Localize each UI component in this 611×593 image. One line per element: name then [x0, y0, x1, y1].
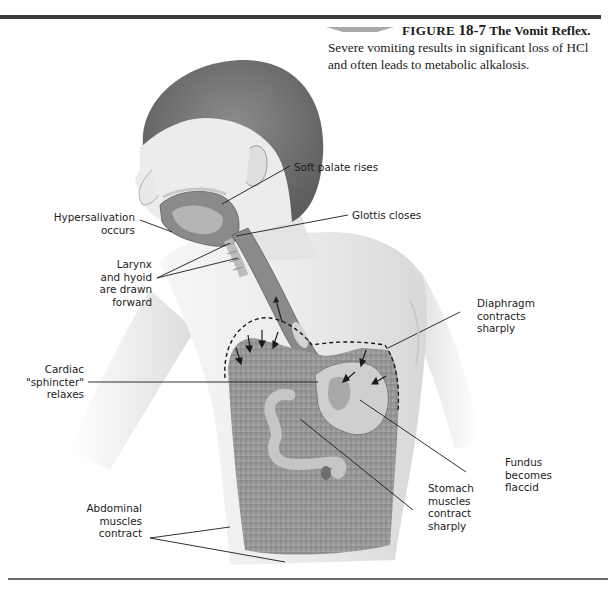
label-larynx-hyoid: Larynx and hyoid are drawn forward — [90, 258, 152, 308]
label-fundus: Fundus becomes flaccid — [505, 456, 552, 494]
label-soft-palate: Soft palate rises — [294, 161, 378, 174]
label-cardiac-sphincter: Cardiac "sphincter" relaxes — [20, 363, 84, 401]
label-stomach-muscles: Stomach muscles contract sharply — [428, 482, 474, 532]
label-diaphragm: Diaphragm contracts sharply — [477, 297, 535, 335]
figure-page: FIGURE 18-7 The Vomit Reflex. Severe vom… — [0, 0, 611, 593]
label-hypersalivation: Hypersalivation occurs — [48, 211, 135, 236]
label-glottis: Glottis closes — [352, 209, 421, 222]
left-arm — [70, 290, 195, 470]
bottom-rule — [8, 578, 608, 580]
label-abdominal-muscles: Abdominal muscles contract — [60, 502, 142, 540]
